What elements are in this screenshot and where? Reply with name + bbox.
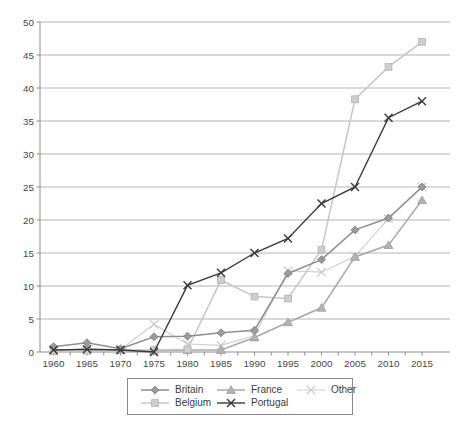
- data-point-marker: [285, 295, 292, 302]
- y-tick-label: 10: [23, 281, 34, 292]
- legend-item-other: Other: [296, 384, 360, 396]
- data-point-marker: [352, 96, 359, 103]
- data-point-marker: [418, 196, 427, 204]
- legend-label: Belgium: [175, 397, 211, 409]
- y-tick-label: 15: [23, 248, 34, 259]
- x-tick-label: 1970: [110, 358, 132, 369]
- legend-item-portugal: Portugal: [216, 397, 296, 409]
- legend-label: Portugal: [251, 397, 288, 409]
- x-tick-label: 1995: [277, 358, 299, 369]
- y-tick-label: 45: [23, 50, 34, 61]
- legend-label: France: [251, 384, 282, 396]
- y-tick-label: 40: [23, 83, 34, 94]
- data-point-marker: [150, 333, 158, 341]
- x-tick-label: 1985: [210, 358, 232, 369]
- legend-item-belgium: Belgium: [140, 397, 216, 409]
- y-tick-label: 5: [29, 314, 35, 325]
- data-point-marker: [184, 332, 192, 340]
- y-tick-label: 0: [29, 347, 35, 358]
- x-tick-label: 1960: [43, 358, 65, 369]
- legend-marker-x-thin-icon: [296, 384, 326, 396]
- legend-marker-square-icon: [140, 397, 170, 409]
- chart-window: 0510152025303540455019601965197019751980…: [0, 0, 458, 423]
- data-point-marker: [385, 63, 392, 70]
- series-line-france: [54, 200, 423, 350]
- data-point-marker: [251, 293, 258, 300]
- y-tick-label: 35: [23, 116, 34, 127]
- series-line-britain: [54, 187, 423, 349]
- data-point-marker: [218, 277, 225, 284]
- x-tick-label: 2015: [411, 358, 433, 369]
- legend-marker-diamond-icon: [140, 384, 170, 396]
- data-point-marker: [317, 304, 326, 312]
- legend-label: Other: [331, 384, 356, 396]
- legend-marker-triangle-icon: [216, 384, 246, 396]
- x-tick-label: 2000: [311, 358, 333, 369]
- legend-label: Britain: [175, 384, 203, 396]
- data-point-marker: [217, 329, 225, 337]
- legend-item-britain: Britain: [140, 384, 216, 396]
- series-line-portugal: [54, 101, 423, 352]
- x-tick-label: 2010: [378, 358, 400, 369]
- data-point-marker: [318, 246, 325, 253]
- line-chart: 0510152025303540455019601965197019751980…: [0, 0, 458, 423]
- data-point-marker: [84, 347, 91, 354]
- chart-legend: BritainFranceOtherBelgiumPortugal: [127, 378, 353, 415]
- data-point-marker: [419, 38, 426, 45]
- y-tick-label: 30: [23, 149, 34, 160]
- data-point-marker: [184, 346, 191, 353]
- y-tick-label: 25: [23, 182, 34, 193]
- data-point-marker: [83, 339, 91, 347]
- legend-marker-x-cross-icon: [216, 397, 246, 409]
- x-tick-label: 2005: [344, 358, 366, 369]
- x-tick-label: 1990: [244, 358, 266, 369]
- legend-item-france: France: [216, 384, 296, 396]
- x-tick-label: 1965: [76, 358, 98, 369]
- series-line-other: [54, 187, 423, 351]
- x-tick-label: 1980: [177, 358, 199, 369]
- y-tick-label: 50: [23, 17, 34, 28]
- x-tick-label: 1975: [143, 358, 165, 369]
- y-tick-label: 20: [23, 215, 34, 226]
